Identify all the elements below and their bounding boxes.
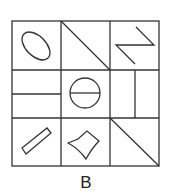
- cell-diagonal: [61, 21, 110, 70]
- cell-bell-shape: [68, 131, 99, 159]
- figure-label: B: [0, 173, 170, 193]
- puzzle-figure: [0, 0, 170, 194]
- cell-diagonal: [110, 118, 159, 166]
- cell-zigzag: [116, 27, 154, 64]
- cell-rectangle: [22, 128, 51, 154]
- cell-ellipse: [17, 27, 55, 65]
